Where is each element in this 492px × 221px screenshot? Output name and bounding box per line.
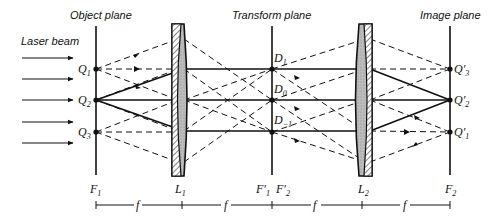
q3-point	[93, 129, 98, 134]
scale-f-1: f	[136, 198, 141, 212]
scale-f-4: f	[403, 198, 408, 212]
lens-l1	[172, 24, 187, 176]
d1-point	[269, 66, 274, 71]
q1p-label: Q′1	[454, 125, 469, 141]
q2p-point	[447, 97, 452, 102]
d1-label: D1	[273, 51, 287, 67]
focal-length-scale	[96, 201, 450, 209]
fourier-optics-diagram: Object plane Transform plane Image plane…	[0, 0, 492, 221]
laser-beam-arrows	[22, 58, 73, 143]
dm1-point	[269, 129, 274, 134]
scale-f-3: f	[313, 198, 318, 212]
q1-label: Q1	[78, 62, 91, 78]
l2-label: L2	[357, 182, 369, 198]
q2-point	[93, 97, 98, 102]
d0-point	[269, 97, 274, 102]
f2-label: F2	[444, 182, 456, 198]
scale-f-2: f	[224, 198, 229, 212]
f1-label: F1	[89, 182, 101, 198]
q1-point	[93, 66, 98, 71]
l1-label: L1	[174, 182, 186, 198]
transform-plane-title: Transform plane	[232, 9, 311, 21]
q3p-point	[447, 66, 452, 71]
image-plane-title: Image plane	[420, 9, 481, 21]
q3p-label: Q′3	[454, 62, 469, 78]
d0-label: D0	[273, 82, 287, 98]
q2p-label: Q′2	[454, 93, 469, 109]
f2p-label: F′2	[275, 182, 290, 198]
dm1-label: D−1	[273, 113, 292, 129]
laser-beam-label: Laser beam	[21, 35, 79, 47]
f1p-label: F′1	[255, 182, 270, 198]
lens-l2	[356, 24, 373, 176]
q1p-point	[447, 129, 452, 134]
q3-label: Q3	[78, 125, 91, 141]
object-plane-title: Object plane	[70, 9, 132, 21]
q2-label: Q2	[78, 93, 91, 109]
